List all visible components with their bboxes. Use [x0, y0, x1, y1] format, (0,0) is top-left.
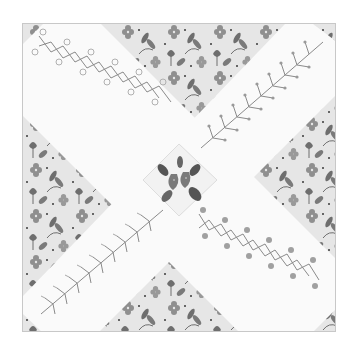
quilt-block — [22, 23, 336, 332]
quilt-block-artwork — [23, 24, 336, 332]
